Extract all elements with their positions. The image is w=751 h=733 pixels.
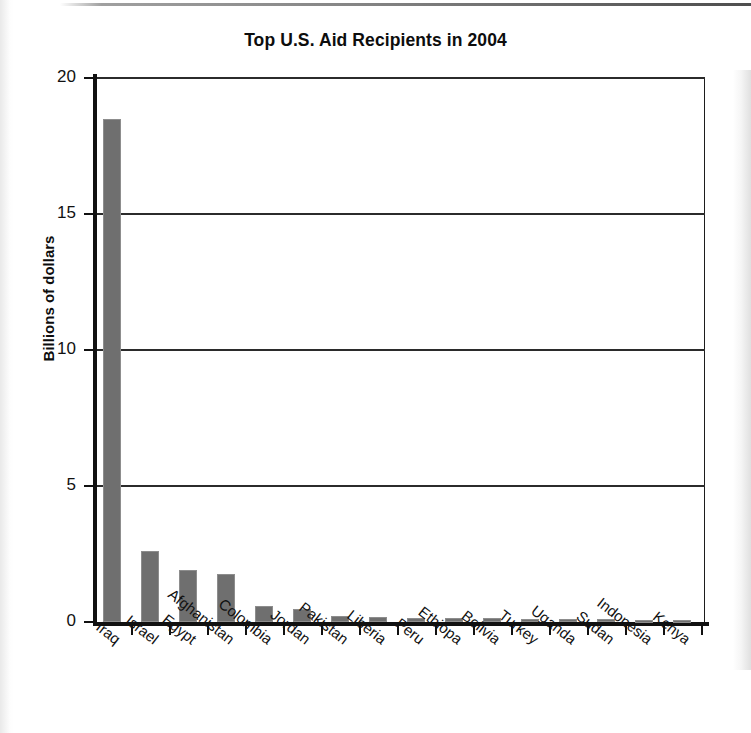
y-tick-label: 10 xyxy=(30,339,76,359)
gridline xyxy=(97,349,705,351)
x-tick-mark xyxy=(701,624,703,635)
gridline xyxy=(97,485,705,487)
y-tick-label: 20 xyxy=(30,67,76,87)
scan-shadow xyxy=(733,70,751,670)
scan-page-edge-left xyxy=(0,0,14,733)
chart-title: Top U.S. Aid Recipients in 2004 xyxy=(0,30,751,51)
scan-page-edge-top xyxy=(60,3,751,6)
bar xyxy=(141,551,159,622)
y-tick-mark xyxy=(84,213,95,216)
y-tick-label: 5 xyxy=(30,475,76,495)
bar xyxy=(103,119,121,622)
y-tick-mark xyxy=(84,77,95,80)
y-tick-mark xyxy=(84,621,95,624)
y-tick-label: 0 xyxy=(30,611,76,631)
y-tick-mark xyxy=(84,485,95,488)
y-tick-label: 15 xyxy=(30,203,76,223)
gridline xyxy=(97,77,705,79)
y-tick-mark xyxy=(84,349,95,352)
gridline xyxy=(97,213,705,215)
chart-figure: Top U.S. Aid Recipients in 2004 Billions… xyxy=(0,0,751,733)
